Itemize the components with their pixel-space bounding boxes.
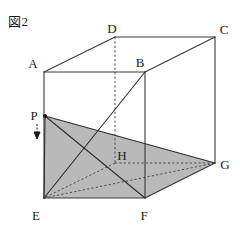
vertex-label-B: B xyxy=(136,55,145,70)
vertex-label-G: G xyxy=(220,157,229,172)
vertex-label-D: D xyxy=(107,21,116,36)
figure-container: 図2 xyxy=(0,0,240,227)
vertex-label-H: H xyxy=(117,148,126,163)
point-p-arrow-icon xyxy=(34,124,40,139)
vertex-label-A: A xyxy=(28,56,38,71)
vertex-label-E: E xyxy=(32,208,40,223)
vertex-label-C: C xyxy=(220,22,229,37)
cube-diagram: A B C D E F G H P xyxy=(0,0,240,227)
edge-B-C xyxy=(145,37,215,72)
vertex-label-P: P xyxy=(30,108,37,123)
point-p-marker xyxy=(43,114,47,118)
edge-D-A xyxy=(44,37,115,72)
vertex-label-F: F xyxy=(140,208,147,223)
